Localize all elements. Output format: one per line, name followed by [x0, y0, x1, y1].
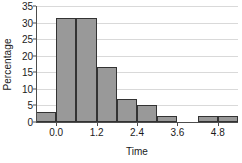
y-axis-title-text: Percentage — [2, 38, 13, 90]
y-tick-label: 20 — [22, 50, 33, 61]
x-tick-label: 1.2 — [90, 127, 104, 138]
histogram-bar — [97, 67, 117, 122]
y-tick-label: 15 — [22, 67, 33, 78]
x-tick-label: 4.8 — [211, 127, 225, 138]
x-tick-mark — [137, 123, 138, 126]
x-tick-label: 3.6 — [170, 127, 184, 138]
y-tick-label: 10 — [22, 83, 33, 94]
histogram-bar — [117, 99, 137, 122]
histogram-bar — [36, 112, 56, 122]
gridline — [36, 6, 238, 7]
y-tick-label: 35 — [22, 1, 33, 12]
y-tick-label: 30 — [22, 17, 33, 28]
x-tick-mark — [97, 123, 98, 126]
y-axis-tick-labels: 05101520253035 — [12, 0, 36, 128]
x-tick-mark — [56, 123, 57, 126]
x-axis-title: Time — [36, 146, 238, 157]
plot-area — [36, 6, 238, 122]
x-tick-label: 0.0 — [49, 127, 63, 138]
histogram-bar — [137, 105, 157, 122]
x-tick-mark — [218, 123, 219, 126]
y-axis-line — [36, 6, 37, 122]
x-tick-label: 2.4 — [130, 127, 144, 138]
histogram-bar — [56, 18, 76, 122]
y-tick-label: 25 — [22, 34, 33, 45]
histogram-bar — [76, 18, 96, 122]
histogram-figure: Percentage 05101520253035 0.01.22.43.64.… — [0, 0, 242, 163]
x-axis-tick-labels: 0.01.22.43.64.8 — [36, 123, 238, 145]
x-tick-mark — [177, 123, 178, 126]
